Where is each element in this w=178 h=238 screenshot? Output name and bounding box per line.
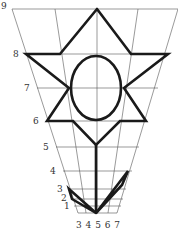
row-label-6: 6 xyxy=(33,117,39,126)
row-label-1: 1 xyxy=(64,202,70,211)
row-label-7: 7 xyxy=(24,84,30,93)
row-label-9: 9 xyxy=(1,2,7,11)
column-labels: 3 4 5 6 7 xyxy=(76,220,121,230)
left-leaf xyxy=(69,189,96,213)
row-label-4: 4 xyxy=(50,167,56,176)
row-label-5: 5 xyxy=(43,143,49,152)
row-label-8: 8 xyxy=(13,50,19,59)
figure-canvas xyxy=(0,0,178,238)
